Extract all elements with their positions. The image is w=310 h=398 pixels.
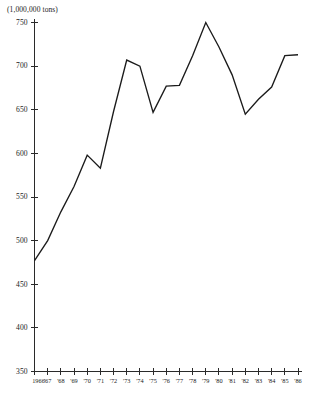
x-axis-tick-labels: 1966'67'68'69'70'71'72'73'74'75'76'77'78… (32, 377, 302, 384)
y-tick-label: 500 (16, 236, 28, 245)
y-axis-tick-labels: 750700650600550500450400350 (16, 18, 28, 376)
data-series-line (35, 23, 299, 261)
y-tick-label: 700 (16, 61, 28, 70)
chart-plot-area: 750700650600550500450400350 1966'67'68'6… (0, 0, 310, 398)
y-tick-label: 350 (16, 367, 28, 376)
x-tick-label: '76 (163, 377, 170, 384)
x-tick-label: '73 (123, 377, 130, 384)
line-chart: (1,000,000 tons) 75070065060055050045040… (0, 0, 310, 398)
y-tick-label: 450 (16, 280, 28, 289)
x-tick-label: '68 (57, 377, 64, 384)
x-tick-label: '79 (202, 377, 209, 384)
x-tick-label: '80 (215, 377, 222, 384)
x-tick-label: '70 (83, 377, 90, 384)
x-tick-label: '74 (136, 377, 144, 384)
x-tick-label: '67 (44, 377, 51, 384)
x-tick-label: '83 (255, 377, 262, 384)
y-tick-label: 750 (16, 18, 28, 27)
x-tick-label: 1966 (32, 377, 45, 384)
x-tick-label: '82 (242, 377, 249, 384)
x-tick-label: '71 (97, 377, 104, 384)
x-tick-label: '78 (189, 377, 196, 384)
x-tick-label: '69 (70, 377, 77, 384)
x-tick-label: '72 (110, 377, 117, 384)
x-axis-tick-marks (35, 368, 299, 375)
y-tick-label: 600 (16, 149, 28, 158)
x-tick-label: '84 (268, 377, 276, 384)
x-tick-label: '77 (176, 377, 183, 384)
x-tick-label: '86 (294, 377, 301, 384)
x-tick-label: '81 (228, 377, 235, 384)
y-tick-label: 400 (16, 323, 28, 332)
y-tick-label: 650 (16, 105, 28, 114)
x-tick-label: '75 (149, 377, 156, 384)
y-tick-label: 550 (16, 192, 28, 201)
x-tick-label: '85 (281, 377, 288, 384)
